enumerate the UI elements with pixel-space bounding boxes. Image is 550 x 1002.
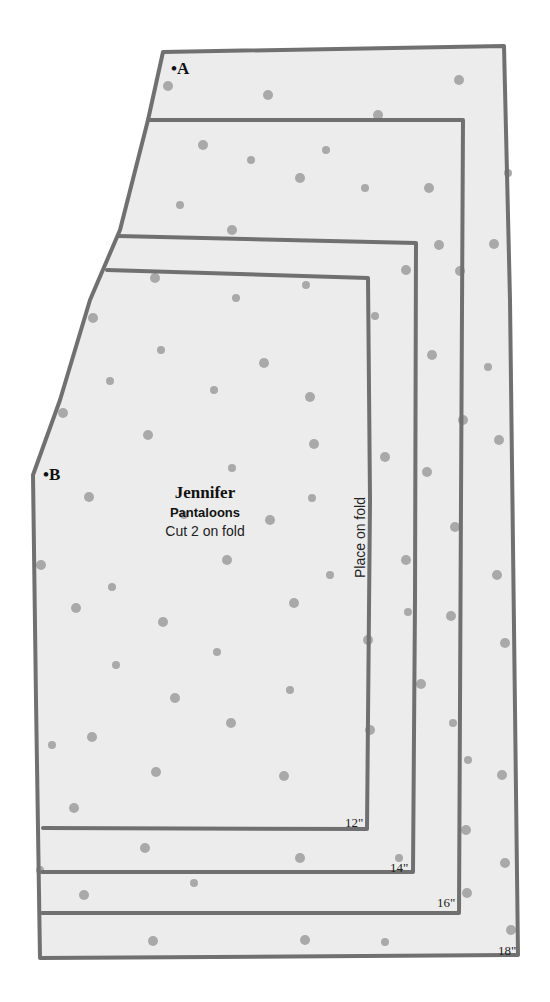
pattern-paper: [33, 46, 518, 958]
pattern-subtitle: Pantaloons: [135, 505, 275, 520]
size-12-label: 12": [345, 815, 363, 831]
fold-label: Place on fold: [352, 497, 368, 578]
size-18-label: 18": [498, 943, 516, 959]
cut-instruction: Cut 2 on fold: [135, 523, 275, 539]
pattern-title: Jennifer: [135, 483, 275, 503]
pantaloons-pattern: [0, 0, 550, 1002]
size-16-label: 16": [437, 895, 455, 911]
point-a-label: •A: [171, 59, 189, 79]
size-14-label: 14": [390, 860, 408, 876]
point-b-label: •B: [43, 465, 60, 485]
